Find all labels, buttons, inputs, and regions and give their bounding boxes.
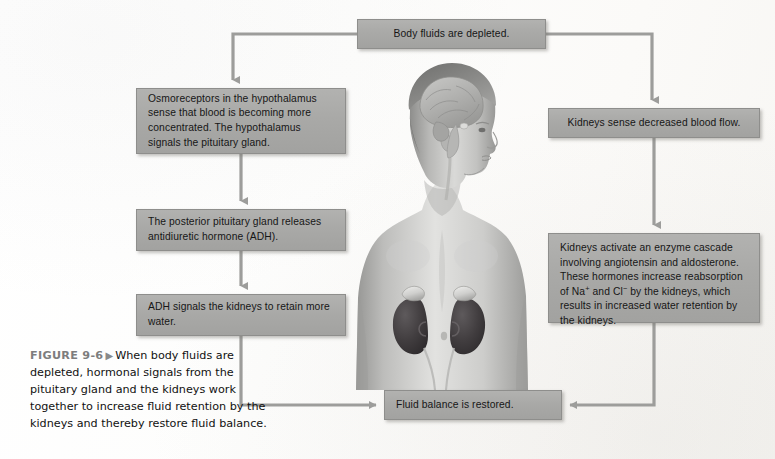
figure-number-label: FIGURE 9-6 [30,349,103,362]
node-kidneys-enzyme-cascade[interactable]: Kidneys activate an enzyme cascade invol… [548,233,760,323]
figure-caption: FIGURE 9-6▶When body fluids are depleted… [30,347,268,432]
edge-depleted-to-osmo [233,34,357,80]
torso [356,178,528,390]
node-label: Kidneys activate an enzyme cascade invol… [560,241,748,329]
node-label: Body fluids are depleted. [369,27,534,42]
node-label: ADH signals the kidneys to retain more w… [148,300,334,329]
triangle-right-icon: ▶ [103,350,115,361]
node-label: The posterior pituitary gland releases a… [148,215,334,244]
node-body-fluids-depleted[interactable]: Body fluids are depleted. [357,19,546,49]
cascade-text-part-2: and Cl [590,286,623,297]
node-label: Osmoreceptors in the hypothalamus sense … [148,92,334,150]
node-fluid-balance-restored[interactable]: Fluid balance is restored. [384,390,562,420]
node-adh-signals-kidneys[interactable]: ADH signals the kidneys to retain more w… [136,294,346,336]
edge-cascade-to-balance [570,323,654,405]
node-osmoreceptors-hypothalamus[interactable]: Osmoreceptors in the hypothalamus sense … [136,88,346,154]
node-posterior-pituitary-adh[interactable]: The posterior pituitary gland releases a… [136,209,346,251]
human-figure-anatomy-illustration [352,60,532,390]
node-label: Fluid balance is restored. [396,398,514,413]
edge-depleted-to-sense [546,34,652,100]
node-label: Kidneys sense decreased blood flow. [560,116,748,131]
node-kidneys-sense-blood-flow[interactable]: Kidneys sense decreased blood flow. [548,108,760,138]
figure-9-6: Body fluids are depleted. Osmoreceptors … [0,0,775,459]
